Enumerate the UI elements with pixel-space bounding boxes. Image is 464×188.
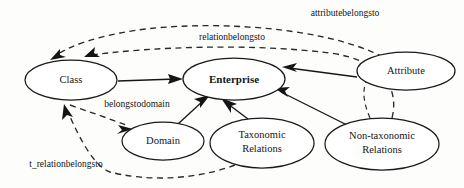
edge-taxonomic-to-enterprise [221, 98, 248, 119]
arrow-head-icon [168, 74, 183, 84]
edge-label-t-relationbelongsto: t_relationbelongsto [29, 159, 103, 169]
node-label-enterprise: Enterprise [209, 73, 259, 85]
node-label-taxonomic-line2: Relations [242, 143, 282, 154]
node-class[interactable]: Class [25, 60, 117, 100]
node-non-taxonomic-relations[interactable]: Non-taxonomic Relations [325, 118, 439, 170]
edge-line [118, 79, 176, 81]
diagram-canvas: Class Enterprise Attribute Domain Taxono… [0, 0, 464, 188]
node-enterprise[interactable]: Enterprise [183, 58, 285, 100]
node-label-nontaxonomic-line2: Relations [362, 144, 402, 155]
edge-attribute-to-class [50, 26, 383, 60]
arrow-head-icon [62, 104, 73, 120]
edge-line [289, 68, 357, 77]
edge-line [364, 82, 370, 118]
node-label-domain: Domain [146, 135, 181, 146]
node-label-attribute: Attribute [387, 65, 425, 76]
edge-class-to-domain [70, 105, 133, 134]
edge-line [281, 92, 349, 126]
edge-label-belongstodomain: belongstodomain [104, 99, 170, 109]
arrow-head-icon [84, 47, 100, 57]
node-label-nontaxonomic-line1: Non-taxonomic [349, 130, 415, 141]
edge-label-attributebelongsto: attributebelongsto [311, 8, 380, 18]
node-domain[interactable]: Domain [122, 122, 204, 160]
edge-label-relationbelongsto: relationbelongsto [199, 32, 265, 42]
edge-domain-to-enterprise [178, 95, 210, 124]
ontology-diagram: Class Enterprise Attribute Domain Taxono… [0, 0, 464, 188]
edge-attribute-to-enterprise [282, 63, 357, 77]
node-label-class: Class [60, 74, 83, 85]
node-label-taxonomic-line1: Taxonomic [238, 129, 285, 140]
edge-nontaxonomic-to-attribute [364, 82, 370, 118]
node-taxonomic-relations[interactable]: Taxonomic Relations [210, 118, 314, 168]
edge-class-to-enterprise [118, 74, 183, 84]
node-attribute[interactable]: Attribute [357, 52, 455, 90]
arrow-head-icon [282, 63, 297, 72]
